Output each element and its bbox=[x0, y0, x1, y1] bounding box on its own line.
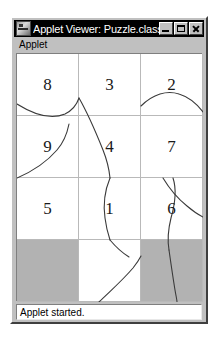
puzzle-tile[interactable] bbox=[79, 240, 141, 302]
status-bar: Applet started. bbox=[16, 304, 202, 320]
applet-viewer-window: Applet Viewer: Puzzle.class Applet 83294… bbox=[10, 16, 208, 324]
puzzle-grid: 832947516 bbox=[17, 54, 203, 302]
puzzle-tile-label: 7 bbox=[167, 137, 176, 157]
status-message: Applet started. bbox=[17, 307, 84, 318]
puzzle-tile[interactable]: 9 bbox=[17, 116, 79, 178]
puzzle-tile[interactable]: 7 bbox=[141, 116, 203, 178]
minimize-icon[interactable] bbox=[159, 22, 173, 35]
puzzle-tile[interactable] bbox=[141, 240, 203, 302]
puzzle-tile[interactable]: 5 bbox=[17, 178, 79, 240]
window-title: Applet Viewer: Puzzle.class bbox=[33, 23, 159, 35]
applet-viewer-icon bbox=[16, 21, 31, 36]
puzzle-tile-label: 9 bbox=[43, 137, 52, 157]
puzzle-tile-label: 2 bbox=[167, 75, 176, 95]
puzzle-tile-label: 3 bbox=[105, 75, 114, 95]
puzzle-tile[interactable]: 8 bbox=[17, 54, 79, 116]
puzzle-tile-label: 8 bbox=[43, 75, 52, 95]
puzzle-tile[interactable]: 1 bbox=[79, 178, 141, 240]
menu-bar: Applet bbox=[14, 37, 204, 53]
puzzle-tile[interactable]: 6 bbox=[141, 178, 203, 240]
puzzle-tile[interactable]: 2 bbox=[141, 54, 203, 116]
close-icon[interactable] bbox=[189, 22, 203, 35]
puzzle-tile[interactable] bbox=[17, 240, 79, 302]
maximize-icon[interactable] bbox=[174, 22, 188, 35]
menu-item-applet[interactable]: Applet bbox=[14, 37, 52, 53]
puzzle-tile[interactable]: 4 bbox=[79, 116, 141, 178]
title-bar[interactable]: Applet Viewer: Puzzle.class bbox=[14, 20, 204, 37]
puzzle-tile[interactable]: 3 bbox=[79, 54, 141, 116]
puzzle-tile-label: 4 bbox=[105, 137, 114, 157]
puzzle-tile-label: 5 bbox=[43, 199, 52, 219]
puzzle-tile-label: 1 bbox=[105, 199, 114, 219]
applet-canvas[interactable]: 832947516 bbox=[16, 53, 202, 301]
puzzle-tile-label: 6 bbox=[167, 199, 176, 219]
